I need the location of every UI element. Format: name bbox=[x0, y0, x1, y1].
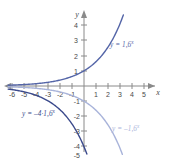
function-label-scaled-text: y = –4·1,6 bbox=[22, 110, 53, 118]
x-tick-label--6: -6 bbox=[9, 91, 15, 98]
y-tick-label--4: -4 bbox=[74, 143, 80, 150]
plot-canvas: -6 -5 -4 -3 -2 -1 1 2 3 4 5 4 3 2 1 -1 -… bbox=[0, 0, 170, 161]
y-tick-label-3: 3 bbox=[74, 37, 78, 44]
x-tick-label-3: 3 bbox=[118, 91, 122, 98]
exponential-functions-figure: -6 -5 -4 -3 -2 -1 1 2 3 4 5 4 3 2 1 -1 -… bbox=[0, 0, 170, 161]
x-tick-label-1: 1 bbox=[94, 91, 98, 98]
function-label-growth-exponent: x bbox=[131, 39, 133, 45]
y-tick-label-4: 4 bbox=[74, 22, 78, 29]
function-label-reflected-text: y = –1,6 bbox=[112, 125, 137, 133]
y-tick-label--2: -2 bbox=[74, 113, 80, 120]
function-label-scaled: y = –4·1,6x bbox=[22, 110, 55, 118]
x-tick-label-5: 5 bbox=[142, 91, 146, 98]
function-label-reflected: y = –1,6x bbox=[112, 125, 139, 133]
y-tick-label-2: 2 bbox=[74, 53, 78, 60]
function-label-reflected-exponent: x bbox=[137, 123, 139, 129]
x-axis-arrow-left bbox=[4, 83, 11, 89]
curve-exponential-growth bbox=[8, 15, 123, 85]
function-label-scaled-exponent: x bbox=[53, 108, 55, 114]
function-label-growth-text: y = 1,6 bbox=[110, 41, 131, 49]
y-tick-label--5: -5 bbox=[74, 152, 80, 159]
function-label-growth: y = 1,6x bbox=[110, 41, 134, 49]
x-tick-label-4: 4 bbox=[130, 91, 134, 98]
x-tick-label-2: 2 bbox=[106, 91, 110, 98]
x-axis-name: x bbox=[155, 88, 160, 97]
x-axis-arrow-right bbox=[148, 83, 155, 89]
x-tick-label--3: -3 bbox=[45, 91, 51, 98]
y-axis-arrow-top bbox=[81, 10, 87, 18]
y-axis-name: y bbox=[74, 10, 79, 19]
